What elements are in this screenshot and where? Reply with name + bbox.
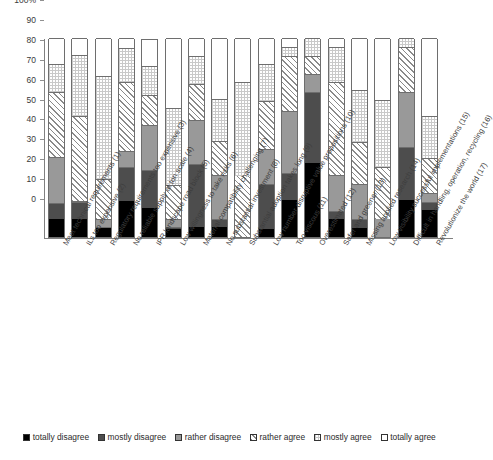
legend-item[interactable]: totally disagree xyxy=(23,432,89,442)
chart-legend: totally disagreemostly disagreerather di… xyxy=(0,432,459,442)
y-axis-tick-label: 0 xyxy=(0,194,36,204)
legend-swatch-icon xyxy=(23,434,30,441)
bar-segment[interactable] xyxy=(142,95,157,125)
bar-segment[interactable] xyxy=(72,38,87,55)
bar-segment[interactable] xyxy=(422,38,437,116)
y-axis-tick-mark xyxy=(40,20,44,21)
bar-segment[interactable] xyxy=(352,142,367,184)
bar-segment[interactable] xyxy=(119,82,134,152)
legend-swatch-icon xyxy=(98,434,105,441)
legend-swatch-icon xyxy=(250,434,257,441)
legend-item[interactable]: totally agree xyxy=(381,432,436,442)
y-axis-tick-label: 10 xyxy=(0,174,36,184)
bar-segment[interactable] xyxy=(352,38,367,90)
bar-segment[interactable] xyxy=(375,38,390,100)
legend-swatch-icon xyxy=(175,434,182,441)
bar-segment[interactable] xyxy=(49,219,64,237)
bar-segment[interactable] xyxy=(399,47,414,92)
y-axis-tick-label: 70 xyxy=(0,55,36,65)
bar-segment[interactable] xyxy=(422,116,437,159)
bar-segment[interactable] xyxy=(49,92,64,158)
legend-item[interactable]: mostly disagree xyxy=(98,432,166,442)
bar-segment[interactable] xyxy=(212,38,227,99)
legend-label: totally agree xyxy=(390,432,436,442)
y-axis-tick-label: 40 xyxy=(0,114,36,124)
bar-segment[interactable] xyxy=(399,38,414,47)
bar-segment[interactable] xyxy=(282,47,297,56)
bar-segment[interactable] xyxy=(189,84,204,120)
y-axis-tick-label: 50 xyxy=(0,95,36,105)
bar-segment[interactable] xyxy=(142,66,157,95)
bar-segment[interactable] xyxy=(329,47,344,82)
bar-segment[interactable] xyxy=(49,203,64,219)
legend-label: mostly agree xyxy=(324,432,372,442)
bar-segment[interactable] xyxy=(305,74,320,92)
legend-item[interactable]: rather disagree xyxy=(175,432,241,442)
bar-segment[interactable] xyxy=(119,48,134,82)
y-axis-tick-label: 90 xyxy=(0,15,36,25)
bar-segment[interactable] xyxy=(189,56,204,84)
bar-segment[interactable] xyxy=(49,157,64,203)
bar-segment[interactable] xyxy=(259,64,274,101)
y-axis-tick-label: 100% xyxy=(0,0,36,5)
y-axis-tick-label: 20 xyxy=(0,154,36,164)
bar-segment[interactable] xyxy=(49,38,64,64)
y-axis-tick-label: 30 xyxy=(0,134,36,144)
bar-segment[interactable] xyxy=(49,64,64,92)
y-axis-tick-mark xyxy=(40,0,44,1)
bar-segment[interactable] xyxy=(259,38,274,64)
bar-segment[interactable] xyxy=(282,56,297,111)
bar-segment[interactable] xyxy=(189,38,204,56)
y-axis-tick-label: 80 xyxy=(0,35,36,45)
bar-segment[interactable] xyxy=(282,38,297,47)
legend-label: mostly disagree xyxy=(108,432,167,442)
y-axis: 100%9080706050403020100 xyxy=(0,0,44,199)
legend-label: rather agree xyxy=(260,432,306,442)
legend-item[interactable]: mostly agree xyxy=(314,432,371,442)
legend-label: totally disagree xyxy=(33,432,89,442)
bar-segment[interactable] xyxy=(235,38,250,82)
legend-swatch-icon xyxy=(381,434,388,441)
bar-segment[interactable] xyxy=(166,38,181,108)
bar-segment[interactable] xyxy=(212,99,227,142)
bar-segment[interactable] xyxy=(72,55,87,116)
bar-segment[interactable] xyxy=(119,38,134,48)
bar-stack[interactable] xyxy=(48,39,65,238)
legend-label: rather disagree xyxy=(185,432,241,442)
bar-segment[interactable] xyxy=(142,39,157,66)
y-axis-tick-label: 60 xyxy=(0,75,36,85)
bar-segment[interactable] xyxy=(72,116,87,202)
bar-segment[interactable] xyxy=(96,38,111,76)
bar-segment[interactable] xyxy=(329,38,344,47)
bar-segment[interactable] xyxy=(375,100,390,168)
bar-segment[interactable] xyxy=(399,92,414,148)
legend-item[interactable]: rather agree xyxy=(250,432,305,442)
bar-segment[interactable] xyxy=(305,38,320,56)
bar-segment[interactable] xyxy=(305,56,320,74)
legend-swatch-icon xyxy=(314,434,321,441)
